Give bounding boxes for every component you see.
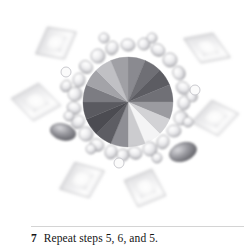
bead-25 xyxy=(147,33,157,43)
caption-row: 7 Repeat steps 5, 6, and 5. xyxy=(31,232,158,244)
bead-16 xyxy=(167,125,181,137)
bead-24 xyxy=(99,33,109,43)
small-ring-upper-left xyxy=(61,67,71,77)
bead-30 xyxy=(86,144,96,154)
petal-bottom-left xyxy=(53,153,112,206)
bead-5 xyxy=(90,48,106,64)
bead-8 xyxy=(171,64,188,82)
petal-top-left xyxy=(27,16,85,69)
small-ring-bottom-center xyxy=(114,158,124,168)
bead-21 xyxy=(103,144,118,161)
petal-left xyxy=(9,80,64,125)
bead-9 xyxy=(72,73,85,88)
petal-right xyxy=(188,96,242,140)
figure-container xyxy=(0,0,251,222)
radial-burst-svg xyxy=(0,0,251,222)
step-number: 7 xyxy=(31,232,37,244)
small-ring-right xyxy=(190,85,200,95)
caption-divider xyxy=(31,226,244,227)
petal-bottom-right xyxy=(117,162,172,215)
step-instruction-text: Repeat steps 5, 6, and 5. xyxy=(44,232,158,244)
dark-blob-lower-right xyxy=(167,139,199,165)
page-root: 7 Repeat steps 5, 6, and 5. xyxy=(0,0,251,251)
bead-1 xyxy=(120,38,136,52)
petal-top-right xyxy=(178,24,236,72)
caption-block: 7 Repeat steps 5, 6, and 5. xyxy=(0,222,251,251)
pie-wedges xyxy=(83,57,173,147)
